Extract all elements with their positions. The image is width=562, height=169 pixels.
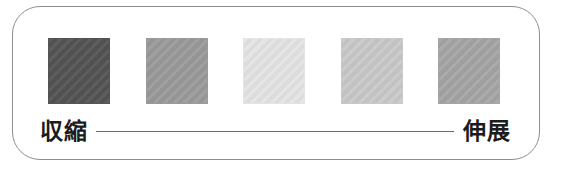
swatch-1 <box>48 38 110 104</box>
figure-root: 収縮 伸展 <box>0 0 562 169</box>
scale-connector-line <box>96 131 454 132</box>
swatch-3 <box>243 38 305 104</box>
scale-label-right: 伸展 <box>463 120 510 143</box>
swatch-5 <box>438 38 500 104</box>
scale-row: 収縮 伸展 <box>40 114 510 148</box>
swatch-2 <box>146 38 208 104</box>
swatch-4 <box>341 38 403 104</box>
scale-label-left: 収縮 <box>40 120 87 143</box>
swatch-row <box>48 38 500 104</box>
